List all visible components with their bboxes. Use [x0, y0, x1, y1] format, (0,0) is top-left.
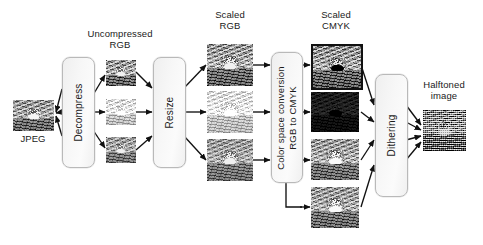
label-halftoned-image: Halftoned image [408, 79, 480, 101]
process-label-decompress: Decompress [73, 83, 84, 141]
process-label-color-space-conversion: Color space conversion RGB to CMYK [275, 66, 299, 170]
edge-rgb-b-to-resize [136, 136, 152, 150]
image-uncompressed-rgb-blue[interactable] [106, 137, 136, 163]
image-halftoned-output[interactable] [423, 110, 466, 151]
process-box-decompress[interactable]: Decompress [62, 57, 95, 168]
image-scaled-rgb-red[interactable] [207, 44, 253, 86]
image-scaled-rgb-blue[interactable] [207, 139, 253, 181]
cmyk-yellow-thumbnail [311, 139, 359, 180]
edge-dithering-to-halftoned-4 [406, 142, 421, 160]
edge-cmyk-k-to-dithering [361, 165, 374, 207]
jpeg-source-thumbnail [13, 100, 54, 131]
image-scaled-cmyk-cyan[interactable] [311, 44, 363, 90]
cmyk-cyan-thumbnail [313, 46, 361, 88]
process-box-resize[interactable]: Resize [153, 57, 186, 168]
image-jpeg-source[interactable] [13, 100, 54, 131]
label-uncompressed-rgb: Uncompressed RGB [74, 28, 166, 50]
edge-dithering-to-halftoned-1 [406, 105, 421, 125]
edge-resize-to-scaled-b [184, 136, 206, 160]
cmyk-magenta-thumbnail [311, 92, 359, 132]
image-scaled-cmyk-magenta[interactable] [311, 92, 359, 132]
process-box-dithering[interactable]: Dithering [375, 74, 408, 197]
process-label-resize: Resize [164, 97, 175, 129]
image-scaled-cmyk-black[interactable] [311, 187, 359, 228]
edge-cmyk-y-to-dithering [361, 140, 374, 160]
process-label-dithering: Dithering [386, 115, 397, 157]
scaled-blue-thumbnail [207, 139, 253, 181]
label-jpeg: JPEG [4, 133, 62, 144]
edge-cmyk-m-to-dithering [361, 112, 374, 122]
image-uncompressed-rgb-red[interactable] [106, 60, 136, 86]
uncompressed-green-thumbnail [106, 99, 136, 125]
image-uncompressed-rgb-green[interactable] [106, 99, 136, 125]
scaled-red-thumbnail [207, 44, 253, 86]
edge-rgb-r-to-resize [136, 72, 152, 88]
process-box-color-space-conversion[interactable]: Color space conversion RGB to CMYK [271, 52, 303, 183]
uncompressed-red-thumbnail [106, 60, 136, 86]
edge-resize-to-scaled-r [184, 65, 206, 88]
edge-dithering-to-halftoned-3 [406, 136, 421, 140]
cmyk-black-thumbnail [311, 187, 359, 228]
halftoned-thumbnail [423, 110, 466, 151]
uncompressed-blue-thumbnail [106, 137, 136, 163]
image-scaled-rgb-green[interactable] [207, 91, 253, 133]
scaled-green-thumbnail [207, 91, 253, 133]
image-scaled-cmyk-yellow[interactable] [311, 139, 359, 180]
edge-dithering-to-halftoned-2 [406, 122, 421, 130]
pipeline-diagram: JPEG Uncompressed RGB Scaled RGB Scaled … [0, 0, 483, 245]
label-scaled-cmyk: Scaled CMYK [303, 9, 369, 31]
edge-csc-to-cmyk-k-elbow [286, 181, 302, 207]
label-scaled-rgb: Scaled RGB [198, 9, 262, 31]
